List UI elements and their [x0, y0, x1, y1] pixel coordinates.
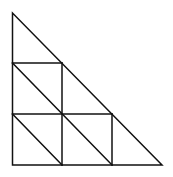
triangle-diagram [0, 0, 173, 177]
outer-triangle [13, 13, 163, 165]
diagonal-2 [13, 114, 63, 165]
